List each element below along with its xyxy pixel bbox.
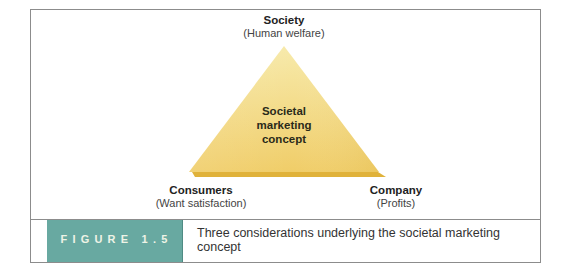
bottom-left-node-consumers: Consumers (Want satisfaction) — [141, 184, 261, 210]
center-node-societal-marketing-concept: Societal marketing concept — [234, 104, 334, 146]
figure-number-label: FIGURE 1.5 — [47, 233, 182, 245]
center-line-3: concept — [234, 132, 334, 146]
bottom-left-title: Consumers — [141, 184, 261, 197]
figure-caption-text: Three considerations underlying the soci… — [197, 226, 527, 254]
apex-node-society: Society (Human welfare) — [224, 14, 344, 40]
caption-bar: FIGURE 1.5 Three considerations underlyi… — [31, 220, 540, 262]
figure-number-tag: FIGURE 1.5 — [47, 220, 183, 262]
bottom-right-node-company: Company (Profits) — [346, 184, 446, 210]
apex-title: Society — [224, 14, 344, 27]
bottom-left-subtitle: (Want satisfaction) — [141, 197, 261, 210]
diagram-area: Society (Human welfare) Societal marketi… — [31, 10, 540, 220]
center-line-2: marketing — [234, 118, 334, 132]
center-line-1: Societal — [234, 104, 334, 118]
bottom-right-subtitle: (Profits) — [346, 197, 446, 210]
triangle-base-slab — [192, 172, 386, 177]
apex-subtitle: (Human welfare) — [224, 27, 344, 40]
figure-frame: Society (Human welfare) Societal marketi… — [30, 9, 541, 263]
bottom-right-title: Company — [346, 184, 446, 197]
